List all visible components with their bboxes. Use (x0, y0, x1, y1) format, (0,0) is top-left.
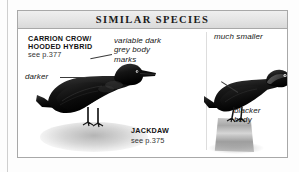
callout-much-smaller: much smaller (214, 32, 263, 41)
jackdaw-name-label: JACKDAW (131, 127, 169, 135)
page-canvas: SIMILAR SPECIES (0, 0, 299, 172)
callout-darker: darker (25, 72, 48, 81)
jackdaw-page-reference: see p.375 (131, 137, 164, 146)
panel-title: SIMILAR SPECIES (96, 14, 210, 25)
crow-page-reference: see p.377 (28, 51, 61, 60)
panel-header: SIMILAR SPECIES (18, 11, 287, 29)
similar-species-panel: SIMILAR SPECIES (17, 10, 288, 158)
column-rule (7, 0, 8, 172)
callout-blacker-body: blackerbody (234, 106, 261, 125)
carrion-crow-illustration (36, 52, 156, 137)
panel-body: CARRION CROW/HOODED HYBRID see p.377 dar… (18, 30, 287, 157)
leader-line-darker (60, 77, 86, 78)
callout-grey-body-marks: variable darkgrey bodymarks (114, 36, 161, 64)
